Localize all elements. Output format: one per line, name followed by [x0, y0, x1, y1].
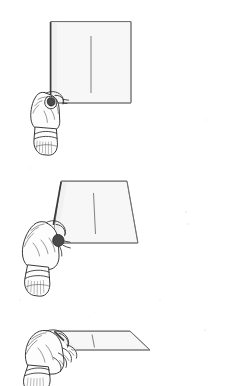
figure-title: Hand holding a sheet of paper at three r… [2, 3, 145, 9]
paper-sheet-icon [51, 22, 132, 104]
hand-back [31, 92, 60, 130]
panel-2-label: Oblique view [2, 295, 37, 301]
thumbnail [47, 98, 55, 106]
pinch-shadow [53, 234, 64, 246]
illustration-figure: Hand holding a sheet of paper at three r… [0, 0, 234, 386]
panel-3-label: Near edge-on view [2, 379, 53, 385]
paper-shading [52, 23, 58, 102]
panel-1-label: Frontal view [2, 155, 35, 161]
illustration-canvas: Hand holding a sheet of paper at three r… [0, 0, 234, 386]
